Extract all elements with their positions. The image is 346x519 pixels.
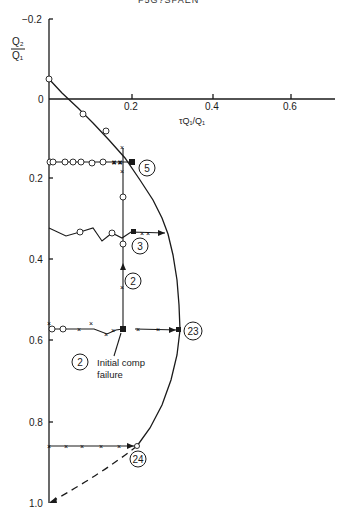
y-tick-label: 0.8 [29, 417, 43, 428]
svg-text:×: × [111, 327, 115, 334]
svg-text:×: × [120, 168, 124, 175]
svg-text:×: × [47, 320, 51, 327]
y-tick-label: 0.2 [29, 173, 43, 184]
svg-text:×: × [136, 326, 140, 333]
label-24: 24 [132, 454, 144, 465]
svg-text:×: × [112, 159, 116, 166]
label-5: 5 [144, 163, 150, 174]
axes [49, 19, 335, 503]
series-specimen-5: × × 5 [47, 159, 155, 176]
svg-text:Initial comp: Initial comp [97, 357, 145, 368]
svg-text:×: × [140, 230, 144, 237]
label-3: 3 [137, 241, 143, 252]
svg-text:×: × [64, 443, 68, 450]
label-2: 2 [130, 276, 136, 287]
y-tick-label: 0.4 [29, 254, 43, 265]
svg-text:×: × [118, 159, 122, 166]
y-tick-label: 0.6 [29, 335, 43, 346]
y-axis-label: Q₂ Q₁ [11, 36, 25, 61]
svg-text:×: × [117, 443, 121, 450]
svg-text:×: × [89, 320, 93, 327]
annotation-initial-comp-failure: 2 Initial comp failure [72, 333, 145, 380]
svg-text:×: × [120, 284, 124, 291]
svg-text:Q₂: Q₂ [12, 36, 24, 47]
series-specimen-24: × × × × × 24 [47, 443, 146, 467]
stress-interaction-chart: −0.2 0 0.2 0.4 0.6 0.8 1.0 0.2 0.4 0.6 Q… [0, 0, 346, 519]
tick-labels: −0.2 0 0.2 0.4 0.6 0.8 1.0 0.2 0.4 0.6 [22, 14, 297, 509]
x-tick-label: 0.2 [124, 101, 138, 112]
label-23: 23 [187, 326, 199, 337]
failure-envelope-dashed [49, 446, 137, 503]
y-tick-label: −0.2 [22, 14, 42, 25]
svg-text:×: × [120, 144, 124, 151]
svg-text:×: × [47, 443, 51, 450]
x-axis-label: τQ₁/Q₁ [179, 116, 205, 126]
svg-text:×: × [80, 443, 84, 450]
svg-text:×: × [77, 326, 81, 333]
failure-envelope-curve [49, 79, 180, 446]
y-tick-label: 1.0 [29, 498, 43, 509]
svg-text:2: 2 [77, 357, 83, 368]
svg-text:×: × [156, 326, 160, 333]
x-tick-label: 0.4 [205, 101, 219, 112]
svg-text:×: × [104, 331, 108, 338]
svg-text:failure: failure [97, 369, 123, 380]
series-specimen-3: × × 3 [49, 228, 165, 254]
svg-text:Q₁: Q₁ [12, 50, 24, 61]
series-specimen-2: × × × 2 [120, 144, 141, 329]
arrow-head [49, 497, 57, 503]
svg-text:×: × [146, 230, 150, 237]
y-tick-label: 0 [38, 94, 44, 105]
x-tick-label: 0.6 [283, 101, 297, 112]
svg-text:×: × [99, 443, 103, 450]
